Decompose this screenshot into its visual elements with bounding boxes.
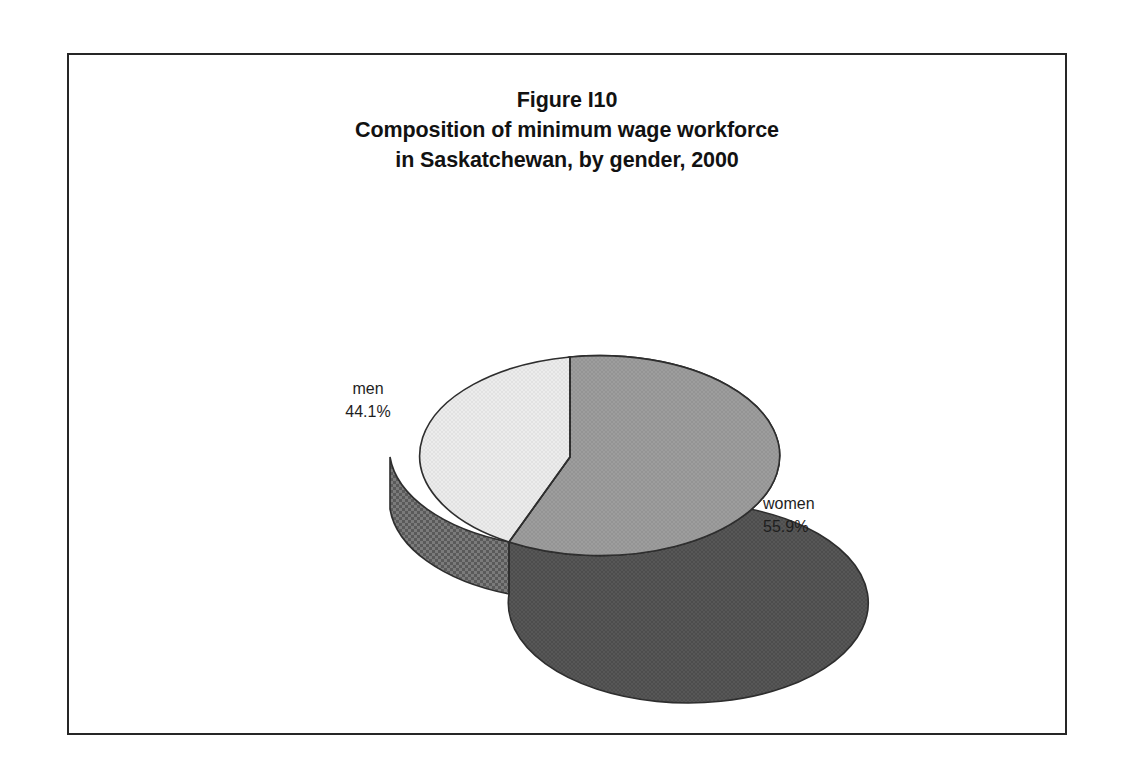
- pie-label-women-name: women: [763, 492, 859, 515]
- pie-label-men: men 44.1%: [322, 377, 414, 423]
- pie-label-men-value: 44.1%: [322, 400, 414, 423]
- figure-frame-border: Figure I10 Composition of minimum wage w…: [67, 53, 1067, 735]
- pie-chart-svg: [69, 55, 1069, 737]
- pie-chart-plot-area: men 44.1% women 55.9%: [69, 55, 1069, 737]
- pie-label-men-name: men: [322, 377, 414, 400]
- figure-page: Figure I10 Composition of minimum wage w…: [0, 0, 1128, 777]
- pie-label-women-value: 55.9%: [763, 515, 859, 538]
- pie-label-women: women 55.9%: [763, 492, 859, 538]
